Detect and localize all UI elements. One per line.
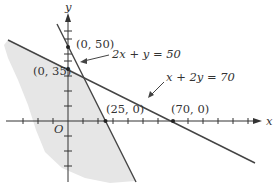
point-label-0-35: (0, 35) [33, 64, 71, 78]
arrow-head-icon [80, 58, 87, 64]
point-25-0 [104, 119, 108, 123]
x-axis-arrow-icon [253, 118, 262, 124]
origin-label: O [54, 122, 64, 136]
arrow-head-icon [148, 91, 154, 98]
point-0-50 [66, 45, 70, 49]
point-label-0-50: (0, 50) [76, 37, 114, 51]
point-70-0 [171, 119, 175, 123]
label-arrows [80, 55, 164, 98]
equation-label-2: x + 2y = 70 [166, 70, 235, 84]
x-axis-label: x [266, 114, 273, 128]
point-label-70-0: (70, 0) [171, 102, 209, 116]
point-label-25-0: (25, 0) [106, 102, 144, 116]
equation-label-1: 2x + y = 50 [111, 47, 181, 61]
y-axis-label: y [64, 0, 72, 14]
y-axis-arrow-icon [65, 13, 71, 22]
inequality-graph: y x O (0, 50) (0, 35) (25, 0) (70, 0) 2x… [0, 0, 276, 188]
